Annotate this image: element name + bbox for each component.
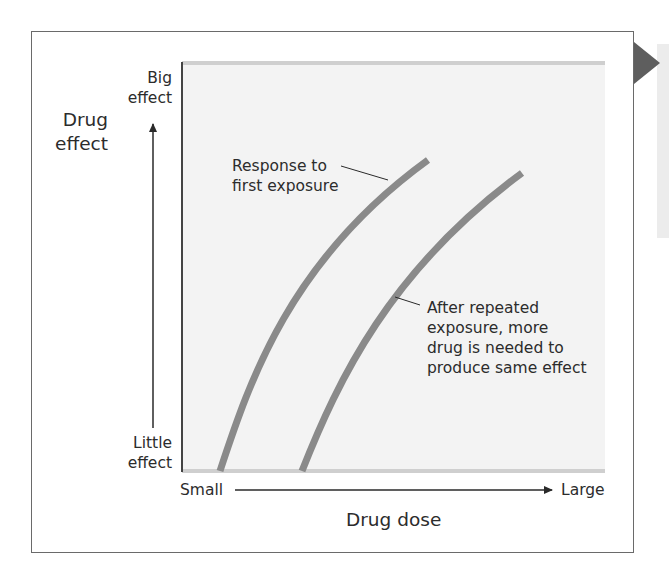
leader-line-first <box>341 166 388 180</box>
curve-repeated-exposure <box>302 173 522 471</box>
leader-line-repeated <box>395 297 420 305</box>
